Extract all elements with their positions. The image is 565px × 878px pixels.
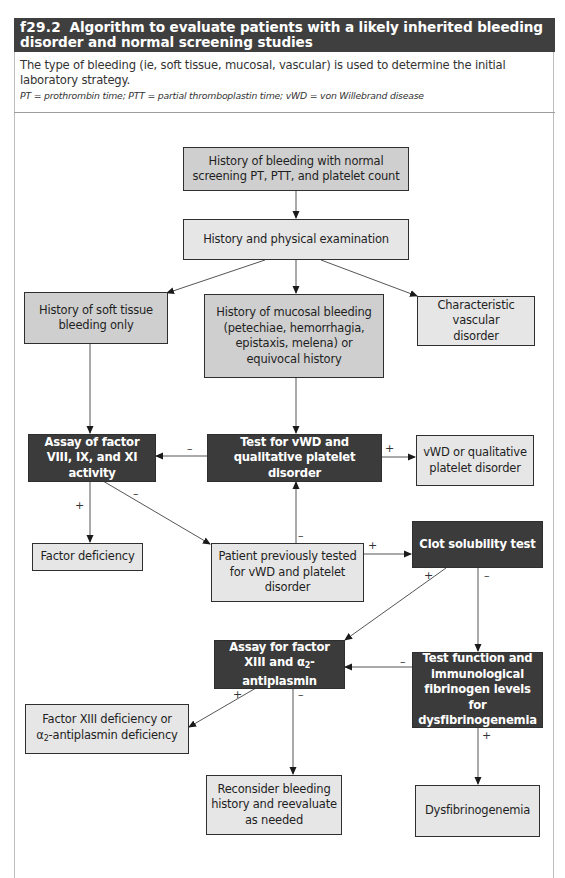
edge-label-plus: + xyxy=(482,730,491,741)
edge-label-minus: – xyxy=(298,689,304,700)
alpha-symbol: α xyxy=(297,655,305,669)
node-start-text: History of bleeding with normal screenin… xyxy=(187,154,405,185)
node-vwd-result-text: vWD or qualitative platelet disorder xyxy=(421,445,529,476)
edge-label-minus: – xyxy=(133,488,139,499)
node-previously-tested-text: Patient previously tested for vWD and pl… xyxy=(218,549,357,596)
edge-label-plus: + xyxy=(233,689,242,700)
node-clot-solubility-text: Clot solubility test xyxy=(419,537,535,553)
node-clot-solubility: Clot solubility test xyxy=(412,521,543,568)
node-reconsider-text: Reconsider bleeding history and reevalua… xyxy=(210,782,338,829)
node-assay-xiii-text: Assay for factor XIII and α2-antiplasmin xyxy=(219,640,340,690)
node-factor-deficiency: Factor deficiency xyxy=(32,543,143,571)
node-soft-tissue: History of soft tissue bleeding only xyxy=(24,292,168,344)
node-vwd-result: vWD or qualitative platelet disorder xyxy=(416,435,534,486)
edge-label-minus: – xyxy=(298,530,304,541)
node-history-exam: History and physical examination xyxy=(183,219,409,260)
edge-label-plus: + xyxy=(368,540,377,551)
alpha-symbol: α xyxy=(36,728,43,742)
edge-label-plus: + xyxy=(385,443,394,454)
node-dysfibrinogenemia: Dysfibrinogenemia xyxy=(415,785,540,837)
node-xiii-deficiency-text: Factor XIII deficiency orα2-antiplasmin … xyxy=(36,712,177,746)
node-start: History of bleeding with normal screenin… xyxy=(183,147,409,191)
node-vascular-text: Characteristic vascular disorder xyxy=(430,298,522,345)
node-mucosal-text: History of mucosal bleeding (petechiae, … xyxy=(211,305,377,367)
node-assay-xiii: Assay for factor XIII and α2-antiplasmin xyxy=(214,640,345,689)
edge-label-plus: + xyxy=(424,570,433,581)
edge-label-plus: + xyxy=(75,500,84,511)
edge-label-minus: – xyxy=(187,443,193,454)
node-test-fibrinogen-text: Test function and immunological fibrinog… xyxy=(417,651,538,729)
node-test-vwd-text: Test for vWD and qualitative platelet di… xyxy=(216,435,373,482)
node-mucosal: History of mucosal bleeding (petechiae, … xyxy=(204,294,384,378)
node-previously-tested: Patient previously tested for vWD and pl… xyxy=(211,543,364,602)
node-history-exam-text: History and physical examination xyxy=(203,232,389,248)
node-xiii-deficiency: Factor XIII deficiency orα2-antiplasmin … xyxy=(25,704,189,754)
node-dysfibrinogenemia-text: Dysfibrinogenemia xyxy=(425,803,530,819)
node-test-vwd: Test for vWD and qualitative platelet di… xyxy=(207,434,382,482)
node-vascular: Characteristic vascular disorder xyxy=(417,296,535,346)
edge-label-minus: – xyxy=(400,656,406,667)
xiii-def-line1: Factor XIII deficiency or xyxy=(42,712,172,726)
xiii-def-line2: -antiplasmin deficiency xyxy=(49,728,178,742)
node-assay-viii-text: Assay of factor VIII, IX, and XI activit… xyxy=(35,435,149,482)
node-factor-deficiency-text: Factor deficiency xyxy=(40,549,134,565)
node-reconsider: Reconsider bleeding history and reevalua… xyxy=(206,775,342,835)
node-soft-tissue-text: History of soft tissue bleeding only xyxy=(39,303,153,334)
edge-label-minus: – xyxy=(484,570,490,581)
node-assay-viii: Assay of factor VIII, IX, and XI activit… xyxy=(28,434,156,482)
node-test-fibrinogen: Test function and immunological fibrinog… xyxy=(412,652,543,728)
